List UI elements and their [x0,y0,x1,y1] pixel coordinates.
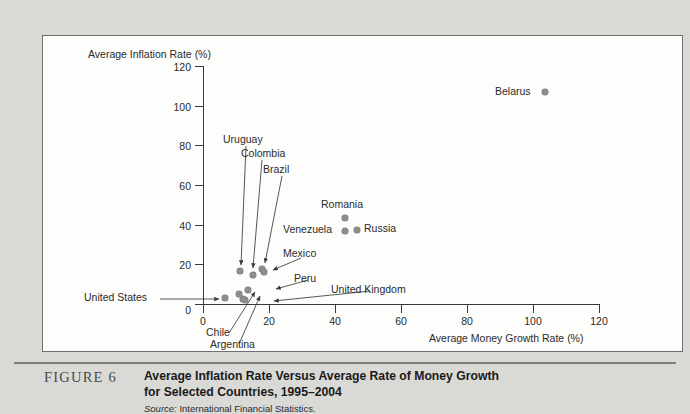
point-label-belarus: Belarus [495,86,531,97]
data-point-peru [245,287,251,293]
figure-title: Average Inflation Rate Versus Average Ra… [144,369,664,400]
scatter-plot: 120 100 80 60 40 20 0 0 20 40 60 80 100 … [43,36,684,353]
point-label-argentina: Argentina [210,339,255,350]
point-label-united-states: United States [84,292,147,303]
caption-divider [14,362,676,364]
point-label-romania: Romania [321,199,363,210]
point-label-colombia: Colombia [241,148,285,159]
data-point-united-states [222,295,228,301]
data-point-venezuela [342,228,348,234]
figure-panel: 120 100 80 60 40 20 0 0 20 40 60 80 100 … [42,35,683,352]
point-label-brazil: Brazil [263,164,289,175]
point-label-peru: Peru [294,273,316,284]
figure-title-line1: Average Inflation Rate Versus Average Ra… [144,369,499,383]
figure-source: Source: International Financial Statisti… [144,403,316,414]
leader-lines [43,36,684,353]
point-label-united-kingdom: United Kingdom [331,284,406,295]
source-prefix: Source: [144,403,177,414]
source-text: International Financial Statistics. [177,403,316,414]
data-point-united-kingdom [242,297,248,303]
point-label-uruguay: Uruguay [223,134,263,145]
data-point-colombia [250,272,256,278]
data-point-belarus [542,89,548,95]
data-point-russia [354,227,360,233]
data-point-romania [342,215,348,221]
point-label-venezuela: Venezuela [283,224,332,235]
figure-number: FIGURE 6 [44,369,117,386]
point-label-chile: Chile [206,327,230,338]
figure-title-line2: for Selected Countries, 1995–2004 [144,385,342,399]
point-label-russia: Russia [364,223,396,234]
point-label-mexico: Mexico [283,248,316,259]
